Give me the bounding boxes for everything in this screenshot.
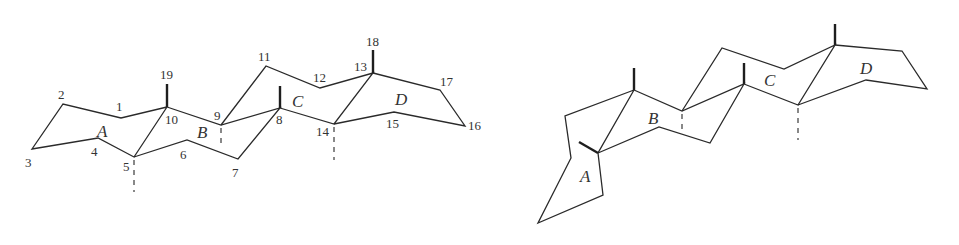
- right-ring-label-b: B: [648, 109, 659, 128]
- steroid-diagram: 1 2 3 4 5 6 7 8 9 10 11 12 13 14 15 16 1…: [0, 0, 959, 245]
- right-h5-bond: [579, 142, 598, 153]
- atom-label-10: 10: [165, 112, 178, 127]
- ring-label-b: B: [197, 123, 208, 142]
- atom-label-11: 11: [258, 49, 271, 64]
- atom-label-18: 18: [366, 34, 379, 49]
- right-ring-b-bonds: [598, 84, 744, 153]
- atom-label-12: 12: [313, 70, 326, 85]
- right-ring-label-c: C: [764, 71, 776, 90]
- right-ring-a-bonds: [538, 90, 634, 223]
- atom-label-15: 15: [386, 116, 399, 131]
- atom-label-8: 8: [276, 112, 283, 127]
- atom-label-4: 4: [91, 144, 98, 159]
- atom-label-13: 13: [354, 59, 367, 74]
- atom-label-2: 2: [58, 87, 65, 102]
- ring-label-a: A: [96, 122, 108, 141]
- atom-label-17: 17: [440, 74, 454, 89]
- atom-label-7: 7: [232, 165, 239, 180]
- atom-label-6: 6: [180, 147, 187, 162]
- right-ring-label-a: A: [579, 167, 591, 186]
- ring-label-c: C: [292, 92, 304, 111]
- atom-label-9: 9: [214, 108, 221, 123]
- atom-label-19: 19: [160, 67, 173, 82]
- ring-label-d: D: [394, 90, 408, 109]
- atom-label-3: 3: [25, 155, 32, 170]
- right-ring-label-d: D: [859, 59, 873, 78]
- atom-label-16: 16: [468, 118, 482, 133]
- left-steroid-structure: 1 2 3 4 5 6 7 8 9 10 11 12 13 14 15 16 1…: [25, 34, 482, 192]
- right-steroid-structure: A B C D: [538, 24, 927, 223]
- atom-label-1: 1: [116, 99, 123, 114]
- atom-label-5: 5: [123, 159, 130, 174]
- atom-label-14: 14: [316, 124, 330, 139]
